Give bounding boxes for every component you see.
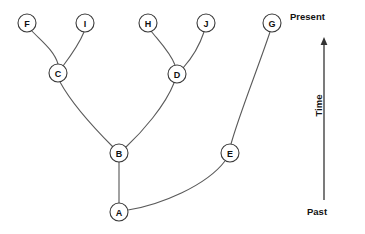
- past-label: Past: [307, 206, 327, 217]
- node-a: A: [110, 203, 128, 221]
- branch-b-d: [126, 83, 174, 147]
- branch-d-j: [183, 32, 204, 68]
- node-h-label: H: [145, 19, 152, 29]
- branch-a-e: [128, 161, 225, 210]
- node-i-label: I: [84, 19, 87, 29]
- node-a-label: A: [116, 208, 123, 218]
- arrow-up-icon: [321, 37, 328, 45]
- node-e: E: [221, 144, 239, 162]
- node-e-label: E: [227, 149, 233, 159]
- node-g-label: G: [268, 19, 275, 29]
- time-axis-label: Time: [313, 83, 324, 129]
- tree-canvas: F I H J G C: [0, 0, 365, 234]
- node-layer: F I H J G C: [18, 14, 281, 221]
- branch-layer: [31, 30, 270, 210]
- node-c-label: C: [55, 69, 62, 79]
- node-d: D: [168, 65, 186, 83]
- node-i: I: [76, 14, 94, 32]
- node-h: H: [139, 14, 157, 32]
- phylogenetic-tree-diagram: F I H J G C: [0, 0, 365, 234]
- node-b: B: [110, 144, 128, 162]
- node-j: J: [197, 14, 215, 32]
- node-f-label: F: [24, 19, 30, 29]
- node-c: C: [49, 64, 67, 82]
- branch-c-i: [63, 32, 84, 66]
- branch-b-c: [60, 82, 113, 147]
- branch-d-h: [151, 31, 175, 65]
- branch-c-f: [31, 30, 58, 64]
- node-d-label: D: [174, 70, 181, 80]
- node-j-label: J: [203, 19, 208, 29]
- node-b-label: B: [116, 149, 123, 159]
- node-f: F: [18, 14, 36, 32]
- branch-e-g: [231, 32, 270, 144]
- node-g: G: [263, 14, 281, 32]
- present-label: Present: [290, 11, 325, 22]
